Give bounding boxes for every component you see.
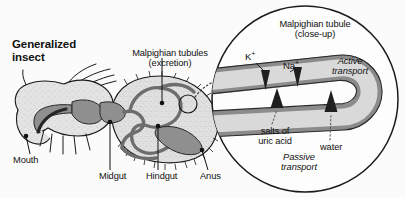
label-sodium-ion: Na+ bbox=[283, 61, 299, 72]
label-hindgut: Hindgut bbox=[146, 171, 177, 181]
label-midgut: Midgut bbox=[99, 171, 126, 181]
label-water: water bbox=[320, 142, 342, 152]
label-malpighian-tubules-excretion: Malpighian tubules (excretion) bbox=[118, 48, 222, 69]
label-passive-transport: Passive transport bbox=[268, 152, 330, 173]
potassium-charge: + bbox=[251, 50, 255, 57]
label-mouth: Mouth bbox=[13, 155, 38, 165]
inset-title-malpighian-tubule-closeup: Malpighian tubule (close-up) bbox=[256, 19, 374, 40]
label-active-transport: Active transport bbox=[320, 56, 380, 77]
page-title-generalized-insect: Generalized insect bbox=[12, 38, 76, 64]
sodium-charge: + bbox=[295, 59, 299, 66]
label-potassium-ion: K+ bbox=[245, 52, 255, 63]
sodium-symbol: Na bbox=[283, 60, 295, 71]
insect-illustration bbox=[15, 58, 222, 170]
label-anus: Anus bbox=[200, 171, 221, 181]
label-salts-of-uric-acid: salts of uric acid bbox=[248, 126, 302, 147]
